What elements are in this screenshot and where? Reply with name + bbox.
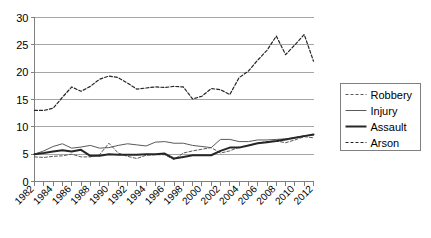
y-tick-label: 25: [16, 39, 28, 51]
y-tick-label: 20: [16, 66, 28, 78]
y-tick-label: 30: [16, 12, 28, 24]
x-tick-label: 2006: [236, 183, 260, 207]
legend-label-arson: Arson: [371, 137, 400, 149]
y-tick-label: 10: [16, 121, 28, 133]
x-tick-label: 1992: [105, 183, 129, 207]
x-tick-label: 1988: [68, 183, 92, 207]
x-axis-tick-labels: 1982198419861988199019921994199619982000…: [12, 183, 315, 207]
data-series: [35, 34, 314, 159]
x-tick-label: 2012: [291, 183, 315, 207]
line-chart: 051015202530 198219841986198819901992199…: [0, 0, 431, 238]
x-tick-label: 2000: [180, 183, 204, 207]
x-tick-label: 1990: [87, 183, 111, 207]
legend-label-robbery: Robbery: [371, 89, 413, 101]
x-tick-label: 2004: [217, 183, 241, 207]
x-tick-label: 2002: [198, 183, 222, 207]
y-tick-label: 15: [16, 94, 28, 106]
x-tick-label: 1998: [161, 183, 185, 207]
x-tick-label: 1982: [12, 183, 36, 207]
legend-label-injury: Injury: [371, 105, 398, 117]
series-line-assault: [35, 134, 314, 158]
x-tick-label: 1994: [124, 183, 148, 207]
chart-container: 051015202530 198219841986198819901992199…: [0, 0, 431, 238]
x-tick-label: 1996: [143, 183, 167, 207]
y-axis-tick-labels: 051015202530: [16, 12, 34, 188]
x-tick-label: 1984: [31, 183, 55, 207]
gridlines: [35, 18, 314, 155]
x-tick-label: 2008: [254, 183, 278, 207]
x-tick-label: 1986: [50, 183, 74, 207]
legend-label-assault: Assault: [371, 121, 407, 133]
chart-legend: RobberyInjuryAssaultArson: [341, 84, 421, 151]
y-tick-label: 5: [22, 148, 28, 160]
x-tick-label: 2010: [273, 183, 297, 207]
